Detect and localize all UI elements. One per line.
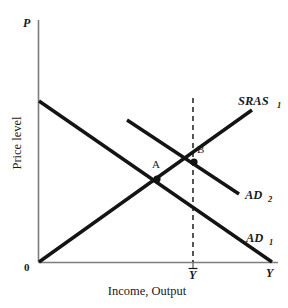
curve-label-sras1-subscript: 1 <box>277 100 281 110</box>
curve-label-ad2-text: AD <box>244 188 262 202</box>
y-axis-title: Price level <box>10 116 24 170</box>
point-a-label: A <box>152 158 160 170</box>
curve-label-ad2-subscript: 2 <box>267 194 273 204</box>
y-axis-symbol: P <box>23 16 31 30</box>
point-b-label: B <box>197 143 204 155</box>
curve-label-ad2: AD 2 <box>244 188 273 204</box>
curve-label-sras1-text: SRAS <box>238 94 269 108</box>
curve-label-ad1: AD 1 <box>245 231 273 247</box>
curve-label-ad1-subscript: 1 <box>269 237 273 247</box>
x-axis-end-symbol: Y <box>266 266 275 280</box>
point-b-marker <box>190 158 197 165</box>
curve-label-ad1-text: AD <box>245 231 263 245</box>
origin-label: 0 <box>24 261 30 273</box>
point-a-marker <box>153 175 160 182</box>
x-tick-label-potential-output: Y <box>189 268 199 282</box>
x-tick-label-text: Y <box>189 268 198 282</box>
ad-as-diagram: A B SRAS 1 AD 2 AD 1 P 0 Y Y Income, Out… <box>0 0 288 308</box>
x-axis-title: Income, Output <box>108 284 187 298</box>
curve-label-sras1: SRAS 1 <box>238 94 281 110</box>
